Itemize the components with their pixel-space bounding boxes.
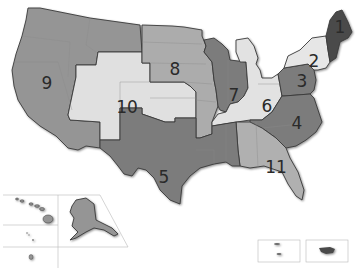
region-label-6: 6 [262,96,273,116]
region-label-2: 2 [309,51,320,71]
region-label-4: 4 [292,113,303,133]
region-label-10: 10 [116,97,138,117]
region-label-9: 9 [42,73,53,93]
region-label-5: 5 [159,167,170,187]
region-label-3: 3 [297,71,308,91]
pacific-islands[interactable] [26,232,34,241]
guam[interactable] [29,255,33,260]
region-label-7: 7 [229,85,240,105]
region-label-1: 1 [335,17,346,37]
inset-boxes [3,195,348,268]
us-circuit-map: 1 2 3 4 5 6 7 8 9 10 11 [0,0,361,271]
alaska[interactable] [70,198,118,240]
virgin-islands[interactable] [274,243,282,255]
hawaii-islands[interactable] [16,198,54,223]
puerto-rico[interactable] [319,247,335,254]
region-label-8: 8 [170,59,181,79]
region-label-11: 11 [265,157,287,177]
